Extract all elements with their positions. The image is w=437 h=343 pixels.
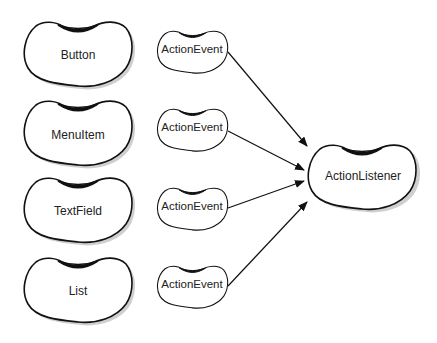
event-bean-4: ActionEvent (157, 266, 227, 308)
source-label: TextField (54, 204, 102, 218)
event-bean-1: ActionEvent (157, 31, 227, 73)
source-bean-button: Button (24, 22, 135, 89)
listener-label: ActionListener (325, 169, 401, 183)
event-label: ActionEvent (161, 200, 223, 212)
event-label: ActionEvent (161, 43, 223, 55)
arrow-event4-to-listener (228, 202, 307, 286)
listener-bean: ActionListener (308, 145, 420, 212)
source-label: List (69, 284, 88, 298)
source-bean-menuitem: MenuItem (24, 101, 135, 168)
arrow-event2-to-listener (228, 131, 304, 170)
event-label: ActionEvent (161, 121, 223, 133)
arrow-event3-to-listener (228, 181, 304, 208)
event-bean-2: ActionEvent (157, 109, 227, 151)
diagram-canvas: Button MenuItem TextField List ActionEve… (0, 0, 437, 343)
source-label: MenuItem (51, 128, 104, 142)
event-label: ActionEvent (161, 278, 223, 290)
source-label: Button (61, 48, 96, 62)
connector-arrows (228, 52, 307, 286)
source-bean-list: List (24, 258, 135, 325)
source-bean-textfield: TextField (24, 178, 135, 245)
event-bean-3: ActionEvent (157, 188, 227, 230)
arrow-event1-to-listener (228, 52, 307, 146)
